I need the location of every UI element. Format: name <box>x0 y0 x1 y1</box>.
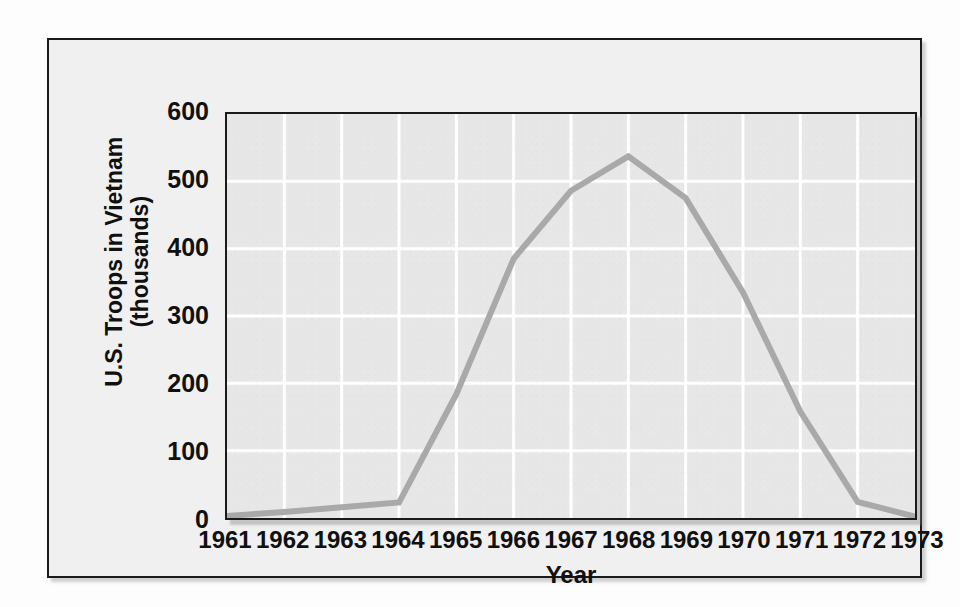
data-series-line <box>227 114 915 518</box>
x-axis-title: Year <box>225 561 917 589</box>
chart-panel: 0100200300400500600 U.S. Troops in Vietn… <box>47 38 922 578</box>
plot-area <box>225 112 917 520</box>
y-axis-title: U.S. Troops in Vietnam (thousands) <box>102 62 154 462</box>
y-axis-title-line-2: (thousands) <box>128 62 154 462</box>
y-axis-title-line-1: U.S. Troops in Vietnam <box>101 137 127 387</box>
x-axis-tick-labels: 1961196219631964196519661967196819691970… <box>225 527 917 561</box>
x-axis-tick-label: 1973 <box>872 527 960 553</box>
figure-canvas: 0100200300400500600 U.S. Troops in Vietn… <box>0 0 960 607</box>
